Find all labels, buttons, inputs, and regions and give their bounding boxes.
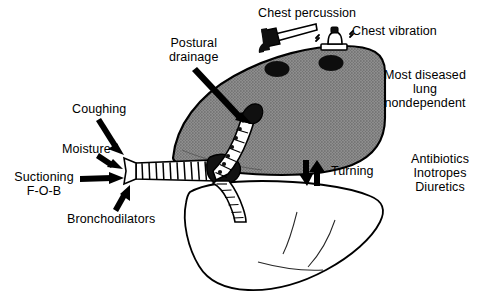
- arrow-suctioning: [80, 172, 124, 184]
- label-coughing: Coughing: [72, 102, 126, 116]
- label-moisture: Moisture: [62, 142, 111, 156]
- label-drug-therapies: Antibiotics Inotropes Diuretics: [404, 152, 476, 194]
- label-bronchodilators: Bronchodilators: [67, 212, 155, 226]
- trachea: [124, 158, 216, 184]
- label-turning: Turning: [331, 164, 374, 178]
- arrow-bronchodilators: [113, 185, 130, 212]
- vibration-contact-spot: [319, 55, 344, 71]
- label-postural-drainage: Postural drainage: [169, 36, 218, 64]
- label-chest-percussion: Chest percussion: [258, 6, 356, 20]
- lower-lung-dependent: [185, 181, 383, 290]
- vibrator-icon: [316, 27, 353, 50]
- diagram-canvas: Chest percussion Chest vibration Postura…: [0, 0, 479, 303]
- percussion-contact-spot: [265, 61, 290, 77]
- label-most-diseased-lung: Most diseased lung nondependent: [375, 68, 475, 110]
- label-suctioning-fob: Suctioning F-O-B: [8, 170, 80, 198]
- label-chest-vibration: Chest vibration: [352, 24, 437, 38]
- upper-lung-diseased: [173, 46, 385, 175]
